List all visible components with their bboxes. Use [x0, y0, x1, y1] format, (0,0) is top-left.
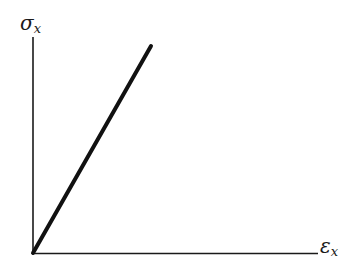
y-axis-label: σx [20, 11, 42, 36]
x-axis-label: εx [320, 234, 339, 259]
linear-stress-strain-line [33, 46, 151, 253]
stress-strain-diagram: σx εx [0, 0, 354, 276]
